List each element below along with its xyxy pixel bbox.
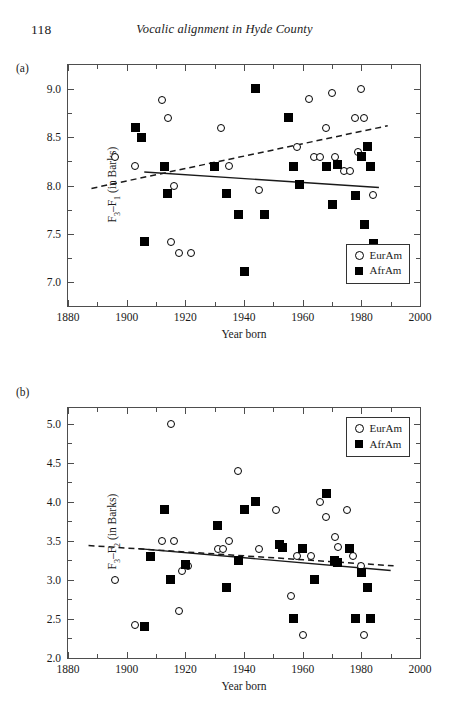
panel-b-x-axis-title: Year born — [68, 680, 420, 692]
data-point-afram — [140, 622, 149, 631]
data-point-afram — [251, 497, 260, 506]
data-point-euram — [170, 537, 178, 545]
legend: EurAmAfrAm — [346, 417, 410, 457]
data-point-afram — [366, 162, 375, 171]
panel-b: (b) 2.02.53.03.54.04.55.0188019001920194… — [0, 364, 449, 715]
panel-b-label: (b) — [16, 386, 29, 398]
panel-a: (a) 7.07.58.08.59.0188019001920194019601… — [0, 44, 449, 364]
data-point-euram — [255, 545, 263, 553]
legend-item-euram: EurAm — [353, 248, 402, 264]
data-point-afram — [284, 113, 293, 122]
x-tick-label: 1900 — [115, 311, 138, 323]
filled-square-marker-icon — [353, 440, 366, 448]
panel-b-plot-frame: 2.02.53.03.54.04.55.01880190019201940196… — [67, 407, 421, 659]
data-point-afram — [160, 505, 169, 514]
data-point-afram — [366, 614, 375, 623]
data-point-afram — [289, 614, 298, 623]
legend: EurAmAfrAm — [346, 244, 410, 284]
data-point-afram — [298, 544, 307, 553]
x-tick-label: 2000 — [409, 663, 432, 675]
data-point-euram — [272, 506, 280, 514]
data-point-afram — [333, 160, 342, 169]
data-point-afram — [240, 267, 249, 276]
x-tick — [420, 408, 421, 414]
y-tick-label: 7.0 — [47, 276, 61, 288]
data-point-euram — [217, 124, 225, 132]
data-point-euram — [328, 89, 336, 97]
data-point-afram — [166, 575, 175, 584]
y-tick-label: 2.5 — [47, 613, 61, 625]
x-tick-label: 1980 — [350, 663, 373, 675]
x-tick-label: 1980 — [350, 311, 373, 323]
panel-a-x-axis-title: Year born — [68, 328, 420, 340]
data-point-afram — [322, 489, 331, 498]
x-tick-label: 1940 — [233, 663, 256, 675]
data-point-afram — [289, 162, 298, 171]
y-tick-label: 8.5 — [47, 131, 61, 143]
data-point-afram — [213, 521, 222, 530]
x-tick-label: 1900 — [115, 663, 138, 675]
legend-item-afram: AfrAm — [353, 263, 402, 279]
y-tick-label: 8.0 — [47, 180, 61, 192]
x-tick — [420, 65, 421, 71]
y-tick-label: 3.5 — [47, 535, 61, 547]
legend-label: EurAm — [370, 248, 402, 264]
y-tick-label: 4.0 — [47, 496, 61, 508]
x-tick — [420, 300, 421, 306]
data-point-afram — [310, 575, 319, 584]
panel-a-plot-area: 7.07.58.08.59.01880190019201940196019802… — [68, 65, 420, 306]
filled-square-marker-icon — [353, 267, 366, 275]
data-point-euram — [343, 506, 351, 514]
data-point-afram — [295, 180, 304, 189]
data-point-afram — [163, 189, 172, 198]
data-point-euram — [158, 96, 166, 104]
data-point-euram — [334, 543, 342, 551]
data-point-afram — [210, 162, 219, 171]
y-tick — [68, 658, 74, 659]
data-point-afram — [363, 583, 372, 592]
data-point-afram — [181, 560, 190, 569]
data-point-afram — [363, 142, 372, 151]
data-point-euram — [255, 186, 263, 194]
y-tick-label: 3.0 — [47, 574, 61, 586]
data-point-afram — [234, 556, 243, 565]
data-point-euram — [331, 533, 339, 541]
data-point-afram — [240, 505, 249, 514]
data-point-afram — [357, 568, 366, 577]
y-tick-label: 9.0 — [47, 83, 61, 95]
open-circle-marker-icon — [353, 251, 366, 260]
x-tick-label: 1960 — [291, 311, 314, 323]
data-point-euram — [316, 498, 324, 506]
data-point-euram — [316, 153, 324, 161]
legend-item-afram: AfrAm — [353, 437, 402, 453]
data-point-euram — [349, 552, 357, 560]
filled-square-marker-icon-glyph — [355, 440, 363, 448]
x-tick-label: 1880 — [57, 663, 80, 675]
legend-item-euram: EurAm — [353, 421, 402, 437]
data-point-euram — [111, 576, 119, 584]
legend-label: AfrAm — [370, 263, 402, 279]
data-point-afram — [222, 583, 231, 592]
data-point-euram — [158, 537, 166, 545]
data-point-euram — [299, 631, 307, 639]
data-point-afram — [345, 544, 354, 553]
data-point-afram — [322, 162, 331, 171]
legend-label: AfrAm — [370, 437, 402, 453]
data-point-afram — [131, 123, 140, 132]
data-point-afram — [360, 220, 369, 229]
data-point-afram — [137, 133, 146, 142]
data-point-euram — [287, 592, 295, 600]
open-circle-marker-icon-glyph — [355, 424, 364, 433]
x-tick-label: 1920 — [174, 311, 197, 323]
filled-square-marker-icon-glyph — [355, 267, 363, 275]
y-tick-label: 7.5 — [47, 228, 61, 240]
x-tick-label: 1880 — [57, 311, 80, 323]
data-point-euram — [167, 420, 175, 428]
panel-a-plot-frame: 7.07.58.08.59.01880190019201940196019802… — [67, 64, 421, 307]
y-tick — [414, 658, 420, 659]
panel-a-label: (a) — [16, 62, 29, 74]
data-point-euram — [322, 124, 330, 132]
data-point-afram — [146, 552, 155, 561]
data-point-euram — [111, 153, 119, 161]
legend-label: EurAm — [370, 421, 402, 437]
